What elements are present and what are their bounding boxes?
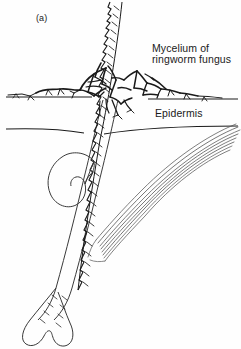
label-mycelium-of-ringworm-fungus: Mycelium ofringworm fungus (152, 43, 231, 65)
label-mycelium-line2: ringworm fungus (152, 53, 231, 65)
hair-bulb (23, 288, 73, 346)
arrector-pili-muscle (88, 124, 240, 262)
ringworm-hair-follicle-figure: (a) Mycelium ofringworm fungus Epidermis (0, 0, 241, 349)
panel-label: (a) (36, 13, 47, 24)
epidermis-base-line (6, 126, 238, 134)
label-epidermis: Epidermis (155, 108, 203, 119)
hair-shaft (78, 2, 122, 290)
